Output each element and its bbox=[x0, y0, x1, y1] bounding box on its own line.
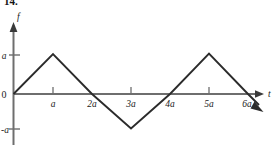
triangular-waveform-plot: f t a 0 -a a 2a 3a 4a 5a 6a bbox=[0, 0, 275, 145]
x-tick-label-4a: 4a bbox=[165, 99, 175, 109]
x-axis bbox=[13, 90, 264, 97]
y-tick-label-negative-a: -a bbox=[1, 125, 9, 135]
y-axis bbox=[10, 22, 18, 145]
figure-container: 14. f t a bbox=[0, 0, 275, 145]
waveform-curve-group bbox=[14, 54, 264, 129]
x-axis-ticks bbox=[53, 87, 209, 94]
x-tick-label-6a: 6a bbox=[242, 99, 252, 109]
y-axis-label: f bbox=[17, 12, 21, 22]
y-tick-label-a: a bbox=[2, 51, 7, 61]
x-axis-label: t bbox=[268, 89, 271, 99]
x-tick-label-a: a bbox=[51, 99, 56, 109]
x-tick-label-3a: 3a bbox=[125, 99, 136, 109]
x-tick-label-2a: 2a bbox=[87, 99, 97, 109]
x-tick-label-5a: 5a bbox=[204, 99, 214, 109]
x-axis-arrowhead bbox=[255, 90, 264, 97]
waveform-polyline bbox=[14, 54, 260, 129]
y-axis-arrowhead bbox=[10, 22, 18, 32]
y-tick-label-zero: 0 bbox=[2, 89, 7, 100]
